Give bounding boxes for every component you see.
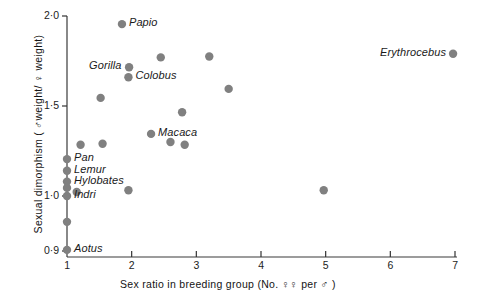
data-point: [178, 108, 186, 116]
data-point: [224, 85, 232, 93]
x-tick-label: 6: [376, 259, 404, 271]
point-label-aotus: Aotus: [74, 242, 103, 254]
point-label-pan: Pan: [74, 151, 94, 163]
y-axis-title-post: weight): [32, 35, 44, 74]
male-symbol-icon: ♂: [32, 121, 44, 129]
data-point: [449, 50, 457, 58]
x-tick-label: 1: [53, 259, 81, 271]
data-point: [147, 130, 155, 138]
point-label-erythrocebus: Erythrocebus: [380, 46, 446, 58]
x-tick-label: 7: [441, 259, 469, 271]
data-point: [63, 218, 71, 226]
data-point: [98, 140, 106, 148]
point-label-indri: Indri: [74, 188, 96, 200]
y-axis-ticks: [62, 16, 67, 251]
point-label-papio: Papio: [129, 16, 158, 28]
female-symbol-pair-icon: ♀♀: [282, 278, 298, 290]
data-point: [125, 63, 133, 71]
point-label-hylobates: Hylobates: [74, 174, 124, 186]
data-point: [63, 184, 71, 192]
x-axis-title-post: ): [329, 278, 336, 290]
data-point: [205, 52, 213, 60]
data-point: [166, 138, 174, 146]
data-point: [157, 53, 165, 61]
data-point: [96, 94, 104, 102]
data-point: [124, 73, 132, 81]
data-point: [63, 246, 71, 254]
point-label-colobus: Colobus: [135, 69, 176, 81]
data-point: [76, 141, 84, 149]
data-point: [320, 186, 328, 194]
scatter-plot-figure: 2·01·51·00·91234567 PapioGorillaColobusE…: [0, 0, 477, 302]
point-label-macaca: Macaca: [158, 126, 197, 138]
x-axis-title: Sex ratio in breeding group (No. ♀♀ per …: [120, 278, 336, 290]
data-point: [118, 20, 126, 28]
x-tick-label: 5: [312, 259, 340, 271]
data-point: [63, 192, 71, 200]
x-tick-label: 2: [118, 259, 146, 271]
x-axis-title-pre: Sex ratio in breeding group (No.: [120, 278, 282, 290]
x-tick-label: 3: [182, 259, 210, 271]
x-tick-label: 4: [247, 259, 275, 271]
x-axis-ticks: [132, 251, 455, 257]
data-point: [63, 155, 71, 163]
point-label-gorilla: Gorilla: [89, 59, 122, 71]
data-point: [63, 167, 71, 175]
male-symbol-icon: ♂: [321, 278, 329, 290]
y-axis-title: Sexual dimorphism ( ♂weight/ ♀ weight): [32, 14, 44, 254]
data-point: [124, 186, 132, 194]
x-axis-title-mid: per: [298, 278, 321, 290]
y-axis-title-pre: Sexual dimorphism (: [32, 129, 44, 234]
data-point: [180, 141, 188, 149]
y-axis-title-mid: weight/: [32, 82, 44, 121]
female-symbol-icon: ♀: [32, 74, 44, 82]
